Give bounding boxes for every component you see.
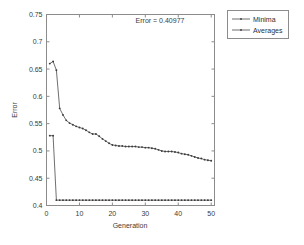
data-point: [115, 145, 117, 147]
x-tick-label: 50: [207, 210, 215, 217]
data-point: [161, 199, 163, 201]
data-point: [82, 199, 84, 201]
data-point: [194, 199, 196, 201]
data-point: [210, 160, 212, 162]
data-point: [78, 127, 80, 129]
data-point: [85, 129, 87, 131]
y-tick-label: 0.55: [29, 120, 43, 127]
data-point: [144, 147, 146, 149]
y-tick-label: 0.75: [29, 11, 43, 18]
data-point: [69, 122, 71, 124]
data-point: [158, 149, 160, 151]
y-tick-label: 0.4: [33, 202, 43, 209]
y-tick-label: 0.5: [33, 147, 43, 154]
data-point: [200, 158, 202, 160]
data-point: [151, 199, 153, 201]
data-point: [154, 199, 156, 201]
data-point: [190, 199, 192, 201]
data-point: [72, 124, 74, 126]
data-point: [177, 199, 179, 201]
data-point: [187, 199, 189, 201]
data-point: [158, 199, 160, 201]
data-point: [102, 138, 104, 140]
data-point: [148, 147, 150, 149]
x-tick-label: 40: [174, 210, 182, 217]
data-point: [131, 199, 133, 201]
data-point: [177, 152, 179, 154]
x-tick-label: 30: [141, 210, 149, 217]
x-tick-label: 10: [76, 210, 84, 217]
data-point: [52, 60, 54, 62]
data-point: [164, 199, 166, 201]
data-point: [171, 151, 173, 153]
data-point: [138, 146, 140, 148]
legend-marker-averages: [240, 29, 242, 31]
data-point: [65, 199, 67, 201]
data-point: [82, 128, 84, 130]
data-point: [78, 199, 80, 201]
data-point: [111, 199, 113, 201]
data-point: [62, 199, 64, 201]
data-point: [190, 155, 192, 157]
data-point: [207, 159, 209, 161]
data-point: [167, 199, 169, 201]
data-point: [95, 199, 97, 201]
data-point: [210, 199, 212, 201]
data-point: [95, 133, 97, 135]
data-point: [108, 199, 110, 201]
data-point: [55, 69, 57, 71]
data-point: [207, 199, 209, 201]
data-point: [171, 199, 173, 201]
data-point: [181, 153, 183, 155]
data-point: [167, 151, 169, 153]
data-point: [131, 146, 133, 148]
data-point: [197, 157, 199, 159]
y-tick-label: 0.65: [29, 66, 43, 73]
legend-marker-minima: [240, 18, 242, 20]
data-point: [105, 140, 107, 142]
data-point: [59, 107, 61, 109]
data-point: [141, 199, 143, 201]
data-point: [121, 199, 123, 201]
data-point: [92, 133, 94, 135]
data-point: [141, 146, 143, 148]
legend-label-minima: Minima: [253, 16, 276, 23]
data-point: [134, 199, 136, 201]
data-point: [187, 154, 189, 156]
data-point: [194, 156, 196, 158]
data-point: [151, 147, 153, 149]
data-point: [144, 199, 146, 201]
x-tick-label: 0: [45, 210, 49, 217]
data-point: [134, 146, 136, 148]
data-point: [161, 150, 163, 152]
data-point: [181, 199, 183, 201]
x-tick-label: 20: [108, 210, 116, 217]
data-point: [125, 146, 127, 148]
data-point: [59, 199, 61, 201]
data-point: [115, 199, 117, 201]
data-point: [102, 199, 104, 201]
data-point: [49, 135, 51, 137]
legend-label-averages: Averages: [253, 27, 283, 35]
data-point: [197, 199, 199, 201]
data-point: [98, 199, 100, 201]
chart-figure: 0.40.450.50.550.60.650.70.75 01020304050…: [0, 0, 304, 245]
data-point: [125, 199, 127, 201]
data-point: [108, 142, 110, 144]
data-point: [111, 144, 113, 146]
data-point: [72, 199, 74, 201]
data-point: [88, 199, 90, 201]
y-axis-title: Error: [11, 102, 18, 118]
data-point: [88, 131, 90, 133]
data-point: [128, 146, 130, 148]
data-point: [118, 199, 120, 201]
data-point: [65, 119, 67, 121]
x-axis-title: Generation: [113, 222, 148, 229]
data-point: [121, 145, 123, 147]
legend: Minima Averages: [228, 11, 289, 39]
data-point: [154, 148, 156, 150]
data-point: [174, 151, 176, 153]
data-point: [98, 135, 100, 137]
y-tick-label: 0.45: [29, 175, 43, 182]
data-point: [174, 199, 176, 201]
